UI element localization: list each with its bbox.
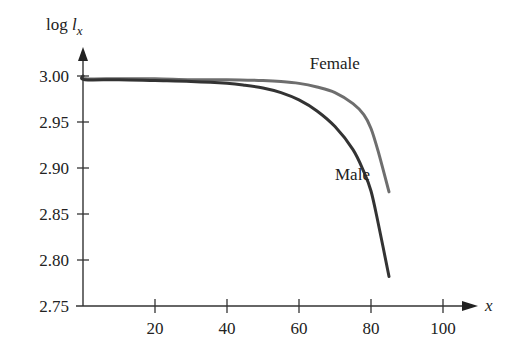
life-table-chart: 3.002.952.902.852.802.75 20406080100 Fem… — [0, 0, 516, 352]
x-tick-label: 40 — [219, 319, 236, 338]
y-ticks: 3.002.952.902.852.802.75 — [39, 67, 89, 316]
x-axis-arrow-icon — [462, 301, 478, 311]
axes — [76, 47, 478, 311]
x-tick-label: 80 — [363, 319, 380, 338]
x-tick-label: 20 — [147, 319, 164, 338]
y-tick-label: 2.80 — [39, 251, 69, 270]
y-tick-label: 2.75 — [39, 297, 69, 316]
y-axis-arrow-icon — [78, 47, 88, 61]
annotation-female: Female — [310, 54, 360, 73]
annotation-male: Male — [335, 165, 370, 184]
y-tick-label: 3.00 — [39, 67, 69, 86]
annotations: FemaleMale — [310, 54, 370, 184]
y-tick-label: 2.90 — [39, 159, 69, 178]
y-tick-label: 2.95 — [39, 113, 69, 132]
x-tick-label: 100 — [430, 319, 456, 338]
x-tick-label: 60 — [291, 319, 308, 338]
x-axis-label: x — [484, 296, 493, 315]
y-axis-label: log lx — [46, 15, 83, 38]
y-tick-label: 2.85 — [39, 205, 69, 224]
x-ticks: 20406080100 — [147, 299, 456, 338]
